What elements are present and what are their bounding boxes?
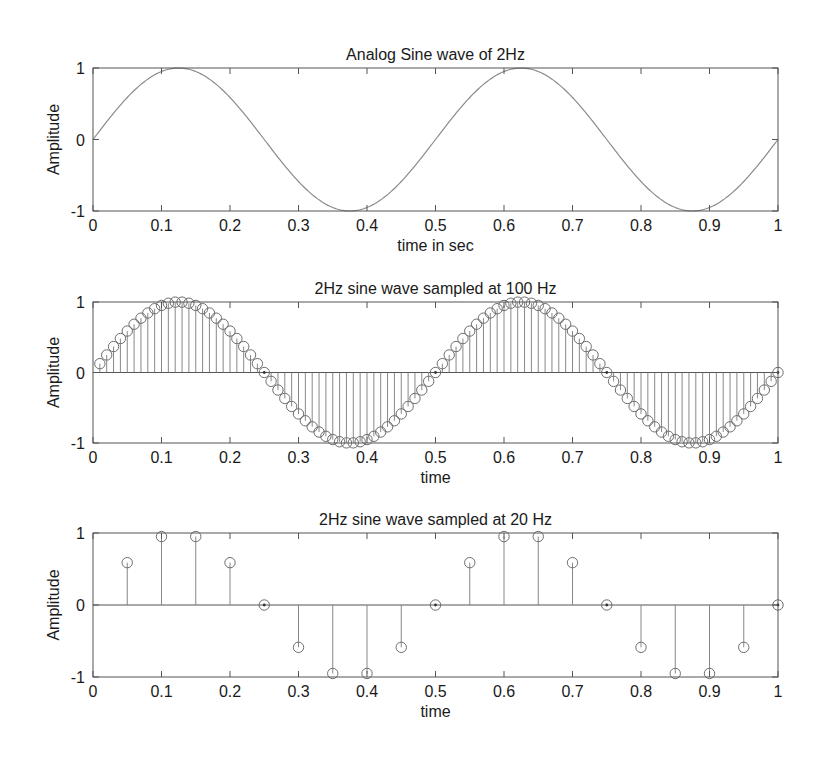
x-tick-label: 0.3 [287,449,309,466]
x-tick-label: 0.1 [150,449,172,466]
x-tick-label: 0.4 [356,449,378,466]
x-tick-label: 0 [89,217,98,234]
zero-dot [605,604,608,607]
subplot-analog-sine: Analog Sine wave of 2Hz00.10.20.30.40.50… [45,46,783,254]
y-tick-label: 1 [76,60,85,77]
y-tick-label: 0 [76,365,85,382]
sine-curve [93,68,778,211]
zero-dot [434,371,437,374]
x-tick-label: 0.3 [287,683,309,700]
x-tick-label: 0.6 [493,683,515,700]
x-tick-label: 0.4 [356,683,378,700]
x-tick-label: 1 [774,449,783,466]
figure: Analog Sine wave of 2Hz00.10.20.30.40.50… [0,0,823,763]
x-tick-label: 0.5 [424,217,446,234]
y-axis-label: Amplitude [45,104,62,175]
x-tick-label: 0.1 [150,217,172,234]
x-tick-label: 0.9 [698,683,720,700]
y-tick-label: 0 [76,132,85,149]
x-tick-label: 1 [774,217,783,234]
x-tick-label: 0.5 [424,449,446,466]
y-axis-label: Amplitude [45,569,62,640]
y-axis-label: Amplitude [45,337,62,408]
x-axis-label: time in sec [397,237,473,254]
x-tick-label: 0.2 [219,449,241,466]
zero-dot [434,604,437,607]
y-tick-label: 0 [76,597,85,614]
x-tick-label: 0.7 [561,217,583,234]
x-tick-label: 0.6 [493,449,515,466]
subplot-sampled-20hz: 2Hz sine wave sampled at 20 Hz00.10.20.3… [45,511,783,720]
subplot-sampled-100hz: 2Hz sine wave sampled at 100 Hz00.10.20.… [45,280,783,486]
x-tick-label: 0.8 [630,683,652,700]
x-tick-label: 0.3 [287,217,309,234]
y-tick-label: -1 [71,203,85,220]
x-tick-label: 0.5 [424,683,446,700]
chart-title: 2Hz sine wave sampled at 20 Hz [319,511,552,528]
x-tick-label: 1 [774,683,783,700]
x-axis-label: time [420,703,450,720]
zero-dot [263,604,266,607]
x-tick-label: 0.2 [219,683,241,700]
zero-dot [263,371,266,374]
zero-dot [605,371,608,374]
chart-title: Analog Sine wave of 2Hz [346,46,525,63]
x-tick-label: 0 [89,449,98,466]
x-tick-label: 0.6 [493,217,515,234]
y-tick-label: -1 [71,435,85,452]
x-tick-label: 0.7 [561,683,583,700]
x-tick-label: 0.8 [630,449,652,466]
x-tick-label: 0.1 [150,683,172,700]
y-tick-label: -1 [71,669,85,686]
x-tick-label: 0.7 [561,449,583,466]
x-tick-label: 0.9 [698,449,720,466]
x-tick-label: 0.9 [698,217,720,234]
x-tick-label: 0.4 [356,217,378,234]
x-tick-label: 0 [89,683,98,700]
x-axis-label: time [420,469,450,486]
y-tick-label: 1 [76,294,85,311]
y-tick-label: 1 [76,525,85,542]
x-tick-label: 0.8 [630,217,652,234]
chart-title: 2Hz sine wave sampled at 100 Hz [315,280,557,297]
x-tick-label: 0.2 [219,217,241,234]
